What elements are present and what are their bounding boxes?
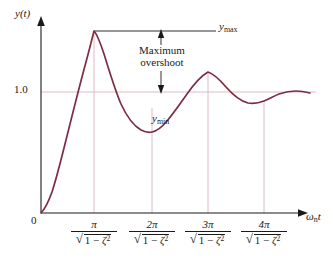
time-variable-t: t bbox=[318, 210, 321, 222]
omega-symbol: ω bbox=[306, 210, 314, 222]
x-tick-pi-denominator: 1 − ζ2 bbox=[63, 233, 125, 246]
x-tick-2pi: 2π 1 − ζ2 bbox=[121, 219, 183, 246]
overshoot-arrow-head-up bbox=[158, 29, 164, 38]
y-min-subscript: min bbox=[157, 117, 169, 126]
x-tick-3pi-denominator: 1 − ζ2 bbox=[177, 233, 239, 246]
x-tick-4pi: 4π 1 − ζ2 bbox=[233, 219, 295, 246]
y-tick-label-1.0: 1.0 bbox=[14, 84, 28, 95]
y-max-subscript: max bbox=[224, 25, 238, 34]
x-tick-3pi-numerator: 3π bbox=[177, 219, 239, 231]
y-min-label: ymin bbox=[152, 113, 169, 126]
overshoot-arrow-head-down bbox=[158, 85, 164, 94]
figure-root: y(t) 1.0 0 ymax ymin Maximum overshoot ω… bbox=[0, 0, 333, 272]
x-tick-pi-numerator: π bbox=[63, 219, 125, 231]
x-tick-4pi-denominator: 1 − ζ2 bbox=[233, 233, 295, 246]
origin-label: 0 bbox=[31, 215, 37, 226]
x-tick-2pi-denominator: 1 − ζ2 bbox=[121, 233, 183, 246]
x-axis-label: ωnt bbox=[306, 211, 321, 224]
x-tick-4pi-numerator: 4π bbox=[233, 219, 295, 231]
y-axis-label: y(t) bbox=[15, 8, 30, 19]
x-tick-2pi-numerator: 2π bbox=[121, 219, 183, 231]
x-tick-pi: π 1 − ζ2 bbox=[63, 219, 125, 246]
y-max-label: ymax bbox=[219, 21, 238, 34]
x-tick-3pi: 3π 1 − ζ2 bbox=[177, 219, 239, 246]
maximum-overshoot-label: Maximum overshoot bbox=[124, 44, 200, 69]
y-axis-arrowhead bbox=[37, 16, 45, 26]
